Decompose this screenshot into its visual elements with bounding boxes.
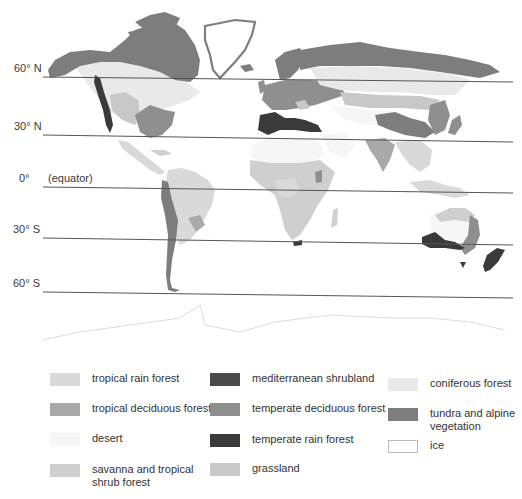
mediterranean-shrubland <box>258 112 322 135</box>
indonesia <box>410 180 470 198</box>
japan <box>448 115 462 135</box>
latitude-label-60s: 60° S <box>13 277 40 289</box>
caribbean <box>150 150 172 156</box>
legend-swatch <box>210 403 240 416</box>
legend-item-ice: ice <box>388 439 444 453</box>
legend-label: coniferous forest <box>430 377 511 390</box>
legend-label: temperate deciduous forest <box>252 402 385 415</box>
legend-item-temperate-rain-forest: temperate rain forest <box>210 433 354 447</box>
central-america <box>118 140 165 175</box>
legend-label: desert <box>92 432 123 445</box>
legend-label: tundra and alpine vegetation <box>430 407 522 433</box>
legend-swatch <box>50 464 80 477</box>
equator-note: (equator) <box>48 172 93 184</box>
legend-item-mediterranean-shrubland: mediterranean shrubland <box>210 372 374 386</box>
latitude-label-60n: 60° N <box>14 62 42 74</box>
latitude-line-60s <box>43 292 513 298</box>
central-asia-grassland <box>340 92 440 110</box>
legend-label: tropical rain forest <box>92 372 179 385</box>
legend-label: temperate rain forest <box>252 433 354 446</box>
south-america <box>161 168 215 292</box>
ethiopia-highland <box>315 170 322 183</box>
legend-item-tropical-rain-forest: tropical rain forest <box>50 372 179 386</box>
legend-swatch <box>388 378 418 391</box>
legend-item-tundra-alpine: tundra and alpine vegetation <box>388 407 522 433</box>
legend-swatch <box>210 434 240 447</box>
iceland <box>240 64 254 72</box>
legend-swatch <box>388 408 418 421</box>
legend-item-coniferous-forest: coniferous forest <box>388 377 511 391</box>
legend-swatch <box>50 433 80 446</box>
tibet-tundra <box>375 112 435 138</box>
legend-item-tropical-deciduous-forest: tropical deciduous forest <box>50 402 211 416</box>
legend-swatch <box>388 440 418 453</box>
legend-item-desert: desert <box>50 432 123 446</box>
legend-label: savanna and tropical shrub forest <box>92 463 197 489</box>
south-africa-med <box>293 240 302 246</box>
latitude-label-equator: 0° <box>19 172 30 184</box>
australia-savanna <box>435 208 475 222</box>
legend-swatch <box>50 403 80 416</box>
legend-swatch <box>210 373 240 386</box>
legend-label: mediterranean shrubland <box>252 372 374 385</box>
se-asia-rainforest <box>395 140 432 172</box>
legend-swatch <box>50 373 80 386</box>
madagascar <box>331 208 338 228</box>
legend-swatch <box>210 463 240 476</box>
north-america <box>48 12 200 175</box>
new-zealand <box>483 248 505 272</box>
arabia-desert <box>320 132 355 158</box>
legend-label: tropical deciduous forest <box>92 402 211 415</box>
legend-item-temperate-deciduous-forest: temperate deciduous forest <box>210 402 385 416</box>
antarctica-outline <box>42 305 505 340</box>
latitude-label-30s: 30° S <box>13 223 40 235</box>
australia <box>422 208 505 272</box>
legend-item-grassland: grassland <box>210 462 300 476</box>
biome-legend: tropical rain forest tropical deciduous … <box>0 360 522 499</box>
legend-label: ice <box>430 439 444 452</box>
africa-savanna <box>250 160 335 240</box>
africa <box>250 138 338 246</box>
tasmania <box>460 262 466 268</box>
india-deciduous <box>365 138 395 172</box>
legend-label: grassland <box>252 462 300 475</box>
latitude-label-30n: 30° N <box>14 120 42 132</box>
legend-item-savanna: savanna and tropical shrub forest <box>50 463 197 489</box>
